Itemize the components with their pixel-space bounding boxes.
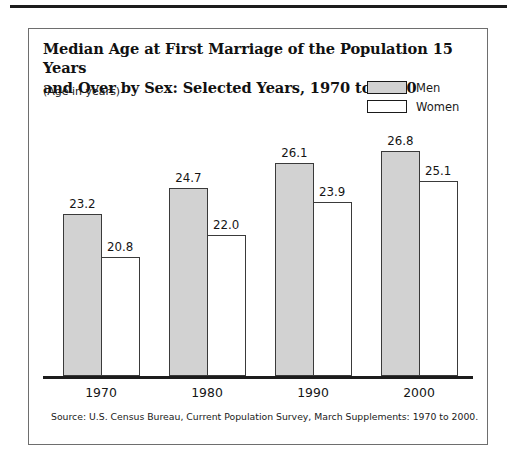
chart-source-note: Source: U.S. Census Bureau, Current Popu… (51, 411, 478, 422)
legend-label-men: Men (416, 81, 440, 95)
chart-card: Median Age at First Marriage of the Popu… (28, 28, 488, 445)
legend-swatch-women-icon (367, 100, 407, 113)
bar-men-2000: 26.8 (381, 151, 420, 376)
chart-title-line-1: Median Age at First Marriage of the Popu… (43, 40, 453, 76)
bar-value-women-2000: 25.1 (425, 164, 451, 178)
x-axis-labels: 1970 1980 1990 2000 (43, 385, 473, 405)
bar-men-1990: 26.1 (275, 163, 314, 376)
bar-women-1980: 22.0 (207, 235, 246, 376)
bar-men-1970: 23.2 (63, 214, 102, 376)
bar-value-men-1970: 23.2 (69, 197, 95, 211)
legend-item-men: Men (367, 79, 471, 96)
bar-value-men-1980: 24.7 (175, 171, 201, 185)
bar-men-1980: 24.7 (169, 188, 208, 376)
plot-area: 23.2 20.8 24.7 22.0 26.1 23.9 26.8 (29, 125, 487, 381)
bar-value-men-2000: 26.8 (387, 134, 413, 148)
x-axis-label-1970: 1970 (85, 385, 117, 400)
bar-value-women-1990: 23.9 (319, 185, 345, 199)
chart-subtitle: (Age in years) (43, 85, 120, 98)
chart-legend: Men Women (367, 79, 471, 117)
x-axis-label-2000: 2000 (403, 385, 435, 400)
legend-item-women: Women (367, 98, 471, 115)
bar-women-2000: 25.1 (419, 181, 458, 376)
x-axis-baseline (43, 376, 473, 379)
legend-label-women: Women (416, 100, 459, 114)
x-axis-label-1990: 1990 (297, 385, 329, 400)
bar-value-men-1990: 26.1 (281, 146, 307, 160)
bar-value-women-1980: 22.0 (213, 218, 239, 232)
bar-women-1970: 20.8 (101, 257, 140, 376)
top-divider-rule (10, 5, 507, 8)
x-axis-label-1980: 1980 (191, 385, 223, 400)
legend-swatch-men-icon (367, 81, 407, 94)
bar-value-women-1970: 20.8 (107, 240, 133, 254)
bar-women-1990: 23.9 (313, 202, 352, 376)
